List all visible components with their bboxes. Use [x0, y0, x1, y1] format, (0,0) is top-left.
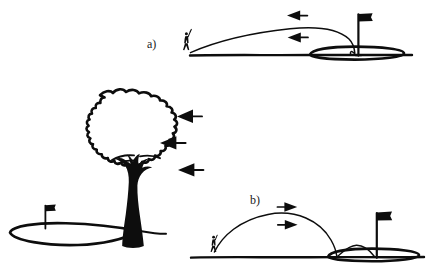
panel-a-trajectory — [191, 28, 355, 53]
panel-a: a) — [147, 11, 412, 60]
tree-scene — [10, 89, 203, 248]
arrow-right-icon — [278, 220, 298, 230]
golf-wind-diagram: a) — [0, 0, 434, 278]
panel-a-green — [310, 47, 404, 60]
panel-b-trajectory — [214, 213, 336, 256]
panel-a-ground-line — [190, 55, 412, 56]
tree-scene-ground-line — [140, 231, 166, 234]
panel-a-flag-icon — [358, 13, 372, 21]
arrow-left-icon — [177, 110, 202, 123]
tree-trunk — [115, 154, 152, 248]
panel-b-flag-icon — [377, 212, 392, 221]
tree-scene-green — [10, 223, 140, 245]
panel-a-label: a) — [147, 37, 156, 51]
panel-b-label: b) — [250, 193, 260, 207]
arrow-left-icon — [287, 11, 307, 21]
diagram-canvas: a) — [0, 0, 434, 278]
arrow-right-icon — [277, 202, 297, 212]
panel-b: b) — [191, 193, 424, 261]
tree-scene-flag-icon — [45, 205, 55, 212]
panel-a-golfer-icon — [183, 29, 191, 50]
panel-b-wind-arrows — [277, 202, 297, 229]
arrow-left-icon — [178, 163, 203, 176]
panel-a-wind-arrows — [287, 11, 308, 43]
tree-crown — [86, 89, 177, 165]
panel-b-ground-line — [191, 257, 424, 258]
arrow-left-icon — [288, 32, 308, 42]
